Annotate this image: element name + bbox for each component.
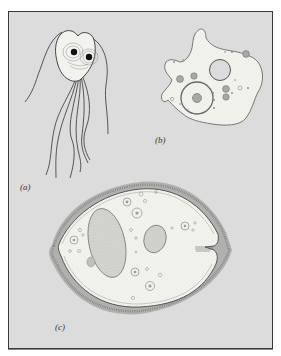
protozoa-illustration: (a) (b) [0, 0, 281, 356]
ciliate-organism [49, 182, 232, 315]
panel-label-a: (a) [20, 182, 31, 192]
amoeba-organism [161, 29, 262, 125]
panel-label-c: (c) [55, 322, 65, 332]
panel-label-b: (b) [155, 135, 166, 145]
flagellate-organism [25, 31, 108, 178]
